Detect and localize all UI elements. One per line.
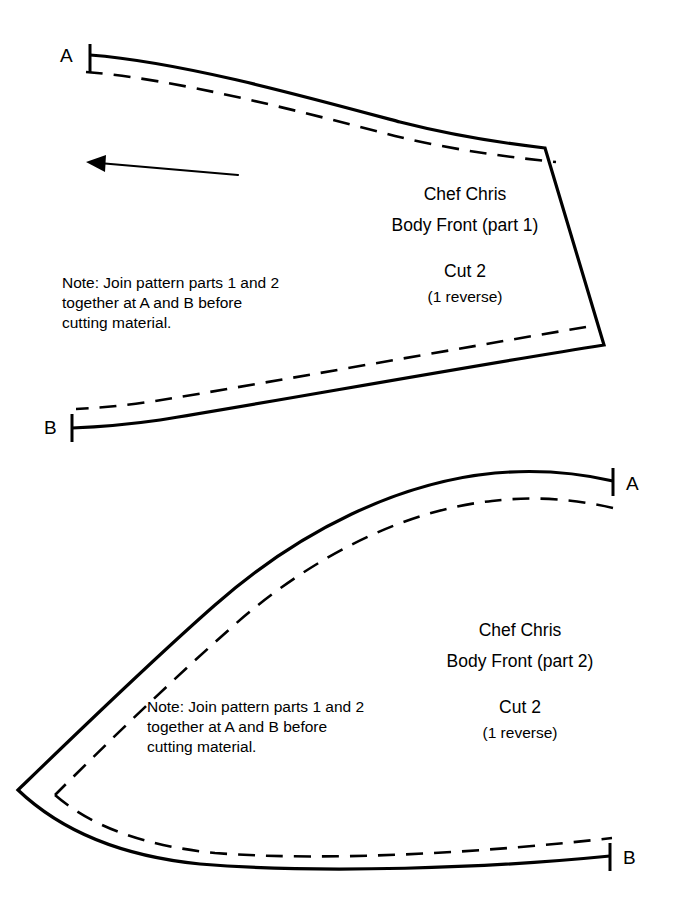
pattern-part-1: A B Chef Chris Body Front (part 1) Cut 2… — [44, 44, 604, 442]
pattern-drawing: A B Chef Chris Body Front (part 1) Cut 2… — [0, 0, 679, 917]
part1-stitch-line-bottom — [76, 327, 586, 409]
part2-note-line-2: together at A and B before — [147, 718, 327, 735]
part2-marker-b-label: B — [623, 847, 636, 868]
part1-stitch-line-top — [86, 72, 556, 162]
pattern-part-2: A B Chef Chris Body Front (part 2) Cut 2… — [18, 468, 639, 871]
part1-title-line-2: Body Front (part 1) — [392, 215, 539, 235]
part2-title-line-2: Body Front (part 2) — [447, 651, 594, 671]
part1-marker-a-label: A — [60, 45, 73, 66]
part1-cut-line — [72, 55, 604, 428]
part1-note-line-3: cutting material. — [62, 314, 171, 331]
part1-note-line-2: together at A and B before — [62, 294, 242, 311]
part1-grainline-arrow — [86, 155, 238, 175]
part2-note-line-3: cutting material. — [147, 738, 256, 755]
part1-title-line-1: Chef Chris — [424, 184, 507, 204]
part2-stitch-line-top — [55, 499, 613, 795]
part2-marker-a-label: A — [626, 473, 639, 494]
part2-cut-sub-label: (1 reverse) — [483, 724, 558, 741]
part1-cut-sub-label: (1 reverse) — [428, 288, 503, 305]
part2-note-line-1: Note: Join pattern parts 1 and 2 — [147, 698, 364, 715]
part1-note-line-1: Note: Join pattern parts 1 and 2 — [62, 274, 279, 291]
pattern-sheet: A B Chef Chris Body Front (part 1) Cut 2… — [0, 0, 679, 917]
part2-stitch-line-bottom — [55, 795, 612, 856]
part2-cut-label: Cut 2 — [499, 697, 541, 717]
part1-marker-b-label: B — [44, 417, 57, 438]
part2-title-line-1: Chef Chris — [479, 620, 562, 640]
part1-cut-label: Cut 2 — [444, 261, 486, 281]
